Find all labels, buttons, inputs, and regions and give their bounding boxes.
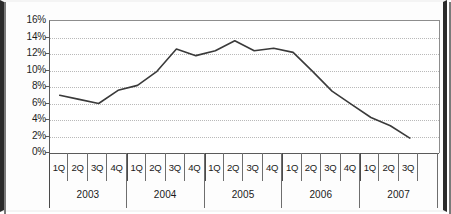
data-series-line	[50, 21, 439, 153]
x-axis-table: 1Q 2Q 3Q 4Q 1Q 2Q 3Q 4Q 1Q 2Q 3Q 4Q 1Q 2…	[49, 153, 438, 208]
x-quarter-cell: 1Q	[360, 153, 379, 181]
y-tick-label: 8%	[6, 81, 46, 91]
x-quarter-cell: 1Q	[127, 153, 146, 181]
x-quarter-cell: 3Q	[88, 153, 107, 181]
year-label-row: 2003 2004 2005 2006 2007	[49, 181, 438, 208]
x-quarter-cell: 3Q	[399, 153, 418, 181]
x-year-cell: 2005	[205, 181, 283, 208]
x-quarter-cell: 3Q	[166, 153, 185, 181]
y-tick-label: 10%	[6, 65, 46, 75]
y-tick-label: 0%	[6, 147, 46, 157]
x-quarter-cell: 1Q	[49, 153, 68, 181]
y-tick-label: 12%	[6, 48, 46, 58]
x-year-cell: 2007	[360, 181, 438, 208]
x-year-cell: 2003	[49, 181, 127, 208]
x-quarter-cell: 2Q	[146, 153, 165, 181]
x-year-cell: 2004	[127, 181, 205, 208]
x-quarter-cell: 4Q	[341, 153, 360, 181]
y-tick-label: 4%	[6, 114, 46, 124]
y-tick-label: 14%	[6, 32, 46, 42]
x-quarter-cell: 1Q	[205, 153, 224, 181]
x-quarter-cell: 1Q	[282, 153, 301, 181]
quarter-label-row: 1Q 2Q 3Q 4Q 1Q 2Q 3Q 4Q 1Q 2Q 3Q 4Q 1Q 2…	[49, 153, 438, 181]
y-tick-label: 16%	[6, 15, 46, 25]
x-quarter-cell: 3Q	[321, 153, 340, 181]
x-year-cell: 2006	[282, 181, 360, 208]
x-quarter-cell: 2Q	[68, 153, 87, 181]
y-tick-label: 6%	[6, 98, 46, 108]
x-quarter-cell: 4Q	[185, 153, 204, 181]
y-axis-labels: 16% 14% 12% 10% 8% 6% 4% 2% 0%	[4, 2, 46, 162]
x-quarter-cell: 3Q	[243, 153, 262, 181]
series-1-polyline	[60, 41, 410, 138]
x-quarter-cell: 2Q	[379, 153, 398, 181]
x-quarter-cell: 4Q	[107, 153, 126, 181]
y-tick-label: 2%	[6, 131, 46, 141]
x-quarter-cell-empty	[418, 153, 437, 181]
x-quarter-cell: 2Q	[224, 153, 243, 181]
plot-area	[49, 20, 440, 153]
x-quarter-cell: 4Q	[263, 153, 282, 181]
x-quarter-cell: 2Q	[302, 153, 321, 181]
